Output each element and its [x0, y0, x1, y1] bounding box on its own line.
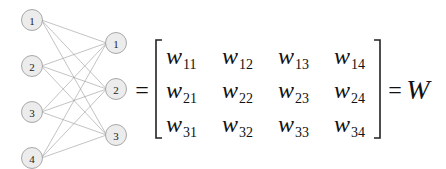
equals-sign-left: = [135, 77, 149, 103]
output-layer: 123 [106, 33, 127, 146]
matrix-entry-w22: w22 [222, 77, 253, 106]
network-diagram: 1234 123 = w11w12w13w14w21w22w23w24w31w3… [0, 0, 446, 169]
node-label: 1 [113, 38, 119, 50]
weight-matrix: w11w12w13w14w21w22w23w24w31w32w33w34 [166, 43, 365, 140]
input-node-2: 2 [22, 56, 43, 77]
matrix-entry-w32: w32 [222, 111, 253, 140]
node-label: 3 [29, 107, 35, 119]
node-label: 2 [29, 61, 35, 73]
input-node-4: 4 [22, 148, 43, 169]
matrix-entry-w11: w11 [166, 43, 197, 72]
matrix-entry-w14: w14 [334, 43, 365, 72]
connection-edge [41, 89, 106, 158]
node-label: 4 [29, 153, 35, 165]
matrix-entry-w12: w12 [222, 43, 253, 72]
output-node-3: 3 [106, 125, 127, 146]
output-node-1: 1 [106, 33, 127, 54]
result-matrix-label: W [406, 74, 432, 105]
input-layer: 1234 [22, 10, 43, 169]
connection-edge [41, 43, 106, 158]
connection-edge [41, 43, 106, 66]
connection-edges [41, 20, 106, 158]
node-label: 2 [113, 84, 119, 96]
input-node-1: 1 [22, 10, 43, 31]
matrix-entry-w21: w21 [166, 77, 197, 106]
matrix-entry-w24: w24 [334, 77, 365, 106]
matrix-entry-w33: w33 [278, 111, 309, 140]
connection-edge [41, 20, 106, 43]
matrix-entry-w34: w34 [334, 111, 365, 140]
equals-sign-right: = [388, 77, 402, 103]
matrix-entry-w31: w31 [166, 111, 197, 140]
input-node-3: 3 [22, 102, 43, 123]
node-label: 1 [29, 15, 35, 27]
matrix-entry-w23: w23 [278, 77, 309, 106]
output-node-2: 2 [106, 79, 127, 100]
matrix-right-bracket [374, 40, 380, 138]
connection-edge [41, 135, 106, 158]
matrix-left-bracket [156, 40, 162, 138]
matrix-entry-w13: w13 [278, 43, 309, 72]
connection-edge [41, 43, 106, 112]
node-label: 3 [113, 130, 119, 142]
